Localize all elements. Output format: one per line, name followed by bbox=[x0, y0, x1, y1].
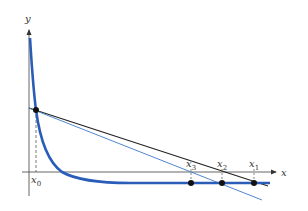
point-x1 bbox=[251, 180, 257, 186]
label-x1: x1 bbox=[249, 158, 259, 172]
x-axis-label: x bbox=[281, 167, 287, 178]
point-x0 bbox=[33, 107, 39, 113]
function-curve bbox=[30, 38, 270, 183]
label-x0: x0 bbox=[31, 174, 41, 188]
label-x3: x3 bbox=[186, 158, 196, 172]
point-x3 bbox=[188, 180, 194, 186]
newton-diagram: x y x0 x3 x2 x1 bbox=[0, 0, 308, 211]
point-x2 bbox=[219, 180, 225, 186]
y-axis-label: y bbox=[24, 13, 31, 24]
tangent-line-blue bbox=[29, 108, 262, 200]
